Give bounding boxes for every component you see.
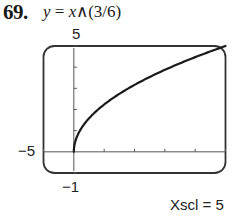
xmin-label: −5: [18, 143, 35, 159]
xscl-label: Xscl = 5: [170, 197, 224, 213]
calculator-graph: [0, 0, 234, 216]
ymax-label: 5: [72, 26, 80, 42]
ymin-label: −1: [62, 179, 79, 195]
graph-frame: [44, 46, 226, 173]
function-curve: [74, 46, 226, 152]
